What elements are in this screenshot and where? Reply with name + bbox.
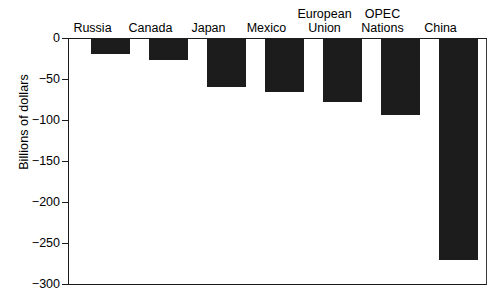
bar-mexico [265,38,304,92]
category-label-japan: Japan [177,22,240,36]
bar-canada [149,38,188,60]
bar-opec-nations [381,38,420,115]
y-tick-label-200: −200 [14,196,60,209]
y-tick-label-150: −150 [14,155,60,168]
category-label-canada: Canada [119,22,182,36]
bar-european-union [323,38,362,102]
category-label-russia: Russia [61,22,124,36]
y-tick-label-250: −250 [14,237,60,250]
bars-container [68,38,487,285]
bar-russia [91,38,130,54]
category-label-china: China [409,22,472,36]
y-tick-label-0: 0 [14,32,60,45]
bar-china [439,38,478,260]
y-tick-label-100: −100 [14,114,60,127]
y-tick-label-50: −50 [14,73,60,86]
y-tick-label-300: −300 [14,278,60,291]
category-label-opec-nations: OPEC Nations [351,8,414,35]
category-label-european-union: European Union [293,8,356,35]
bar-chart: Billions of dollars 0 −50 −100 −150 −200… [0,0,498,295]
category-label-mexico: Mexico [235,22,298,36]
bar-japan [207,38,246,87]
